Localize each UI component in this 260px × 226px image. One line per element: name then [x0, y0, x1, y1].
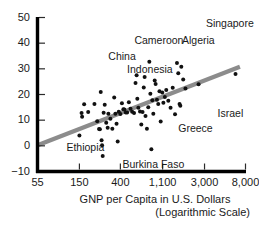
data-point — [139, 123, 143, 127]
data-point — [155, 98, 159, 102]
y-axis-tick-label: 40 — [4, 37, 30, 48]
data-point — [173, 112, 177, 116]
y-axis-tick-label: 20 — [4, 89, 30, 100]
y-axis-tick-label: 30 — [4, 63, 30, 74]
data-point — [178, 104, 182, 108]
data-point — [82, 102, 86, 106]
data-point — [151, 112, 155, 116]
data-point — [104, 121, 108, 125]
data-point — [153, 78, 157, 82]
data-point — [197, 82, 201, 86]
data-point — [102, 111, 106, 115]
data-point — [163, 95, 167, 99]
data-point — [136, 106, 140, 110]
data-point — [103, 103, 107, 107]
data-point — [106, 112, 110, 116]
data-point — [176, 71, 180, 75]
data-point — [112, 96, 116, 100]
point-annotation: Algeria — [182, 35, 215, 46]
y-axis-tick-label: −10 — [4, 166, 30, 177]
data-point — [181, 78, 185, 82]
data-point — [115, 122, 119, 126]
x-axis-tick-label: 150 — [57, 177, 101, 188]
data-point — [141, 110, 145, 114]
data-point — [86, 110, 90, 114]
data-point — [134, 81, 138, 85]
y-axis-tick-label: 50 — [4, 12, 30, 23]
point-annotation: Indonesia — [127, 64, 173, 75]
x-axis-tick-label: 55 — [16, 177, 60, 188]
data-point — [98, 127, 102, 131]
x-axis-tick-label: 8,000 — [224, 177, 260, 188]
x-axis-subtitle: (Logarithmic Scale) — [60, 206, 250, 219]
data-point — [183, 87, 187, 91]
data-point — [108, 117, 112, 121]
point-annotation: Israel — [218, 108, 244, 119]
data-point — [110, 127, 114, 131]
data-point — [161, 101, 165, 105]
x-axis-tick-label: 1,100 — [141, 177, 185, 188]
data-point — [145, 127, 149, 131]
data-point — [234, 72, 238, 76]
data-point — [144, 114, 148, 118]
point-annotation: Burkina Faso — [122, 159, 184, 170]
data-point — [164, 88, 168, 92]
point-annotation: Ethiopia — [66, 142, 104, 153]
data-point — [106, 126, 110, 130]
y-axis-tick-label: 0 — [4, 140, 30, 151]
data-point — [154, 82, 158, 86]
point-annotation: Cameroon — [134, 35, 183, 46]
data-point — [118, 112, 122, 116]
data-point — [116, 139, 120, 143]
data-point — [135, 97, 139, 101]
data-point — [175, 61, 179, 65]
data-point — [99, 90, 103, 94]
data-point — [92, 102, 96, 106]
point-annotation: China — [108, 51, 135, 62]
y-axis-tick-label: 10 — [4, 114, 30, 125]
data-point — [143, 75, 147, 79]
data-point — [149, 147, 153, 151]
data-point — [113, 112, 117, 116]
data-point — [169, 106, 173, 110]
data-point — [159, 119, 163, 123]
x-axis-title: GNP per Capita in U.S. Dollars — [60, 193, 250, 206]
data-point — [171, 86, 175, 90]
data-point — [95, 119, 99, 123]
data-point — [101, 154, 105, 158]
scatter-chart: −1001020304050 551504001,1003,0008,000 S… — [0, 0, 259, 226]
data-point — [160, 90, 164, 94]
data-point — [80, 111, 84, 115]
data-point — [148, 92, 152, 96]
data-point — [142, 86, 146, 90]
data-point — [125, 110, 129, 114]
data-point — [127, 100, 131, 104]
data-point — [132, 111, 136, 115]
x-axis-tick-label: 400 — [98, 177, 142, 188]
point-annotation: Singapore — [206, 18, 254, 29]
data-point — [120, 101, 124, 105]
x-axis-tick-label: 3,000 — [183, 177, 227, 188]
point-annotation: Greece — [178, 123, 212, 134]
data-point — [150, 98, 154, 102]
data-point — [156, 102, 160, 106]
data-point — [179, 65, 183, 69]
data-point — [77, 134, 81, 138]
data-point — [146, 105, 150, 109]
data-point — [166, 99, 170, 103]
data-point — [80, 115, 84, 119]
